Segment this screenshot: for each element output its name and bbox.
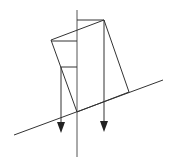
- arrowhead-right-icon: [100, 121, 108, 132]
- tilted-block: [51, 20, 129, 112]
- arrowhead-left-icon: [57, 122, 65, 133]
- incline-diagram: [0, 0, 175, 163]
